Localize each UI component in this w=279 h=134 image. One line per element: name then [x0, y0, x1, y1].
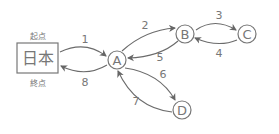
- svg-text:D: D: [177, 103, 187, 118]
- svg-text:A: A: [113, 53, 122, 68]
- svg-text:C: C: [242, 27, 251, 42]
- edge-label-7: 7: [133, 95, 140, 108]
- node-b: B: [176, 25, 194, 43]
- node-c: C: [238, 25, 256, 43]
- edge-5: [128, 41, 178, 58]
- edge-2: [122, 28, 175, 51]
- end-label: 終点: [30, 78, 46, 88]
- edge-label-6: 6: [160, 68, 167, 81]
- start-node-label: 日本: [22, 49, 54, 68]
- node-d: D: [173, 101, 191, 119]
- edge-1: [60, 47, 106, 56]
- edge-8: [61, 65, 107, 72]
- start-node-japan: 日本: [17, 43, 58, 73]
- node-a: A: [108, 51, 126, 69]
- edge-3: [196, 24, 236, 31]
- edge-label-8: 8: [82, 76, 89, 89]
- route-diagram: 日本 起点 終点 A B C D 1 2 3 4 5 6 7 8: [0, 0, 279, 134]
- start-label: 起点: [30, 32, 46, 41]
- edge-label-2: 2: [142, 19, 149, 32]
- edge-label-5: 5: [157, 51, 164, 64]
- edge-label-1: 1: [82, 33, 89, 46]
- svg-text:B: B: [181, 27, 190, 42]
- edge-label-4: 4: [216, 47, 223, 60]
- edge-label-3: 3: [216, 9, 223, 22]
- edge-4: [195, 38, 237, 44]
